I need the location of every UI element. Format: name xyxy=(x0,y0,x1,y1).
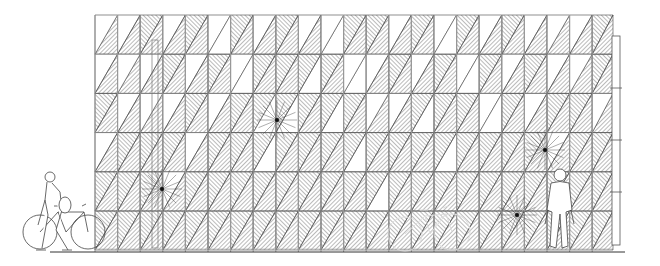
hub-node xyxy=(160,187,164,191)
pedestrian-with-bicycle-icon xyxy=(23,172,105,250)
facade-elevation xyxy=(0,0,660,266)
hub-node xyxy=(275,118,279,122)
elevation-drawing xyxy=(0,0,660,266)
hatched-panel-grid xyxy=(95,15,613,250)
downpipe xyxy=(612,36,620,245)
hub-node xyxy=(515,213,519,217)
hub-node xyxy=(543,148,547,152)
